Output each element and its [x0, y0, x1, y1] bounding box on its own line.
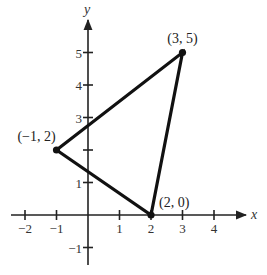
- x-tick-label: 3: [179, 221, 186, 236]
- triangle-series: (−1, 2)(3, 5)(2, 0): [17, 31, 198, 219]
- x-tick-label: 2: [148, 221, 155, 236]
- x-ticks: −2−11234: [18, 210, 218, 236]
- y-tick-label: 5: [76, 46, 83, 61]
- x-tick-label: −2: [18, 221, 32, 236]
- vertex-label: (2, 0): [159, 195, 190, 211]
- x-tick-label: −1: [50, 221, 64, 236]
- x-tick-label: 1: [116, 221, 123, 236]
- y-tick-label: 3: [76, 111, 83, 126]
- vertex-label: (−1, 2): [17, 129, 56, 145]
- y-tick-label: 1: [76, 176, 83, 191]
- vertex-label: (3, 5): [167, 31, 198, 47]
- y-ticks: −11345: [68, 46, 93, 256]
- triangle-edges: [57, 53, 183, 216]
- y-axis-label: y: [82, 2, 91, 17]
- y-tick-label: 4: [76, 78, 83, 93]
- vertex-point: [147, 211, 154, 218]
- vertex-point: [53, 146, 60, 153]
- vertex-point: [179, 49, 186, 56]
- coordinate-plot: x y −2−11234 −11345 (−1, 2)(3, 5)(2, 0): [0, 0, 267, 275]
- x-tick-label: 4: [211, 221, 218, 236]
- y-tick-label: −1: [68, 241, 82, 256]
- x-axis-label: x: [250, 207, 258, 222]
